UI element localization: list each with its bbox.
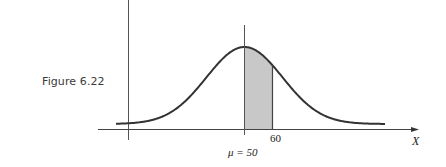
x-axis-arrow-icon	[411, 127, 419, 132]
x-axis-label: X	[411, 134, 420, 148]
normal-curve-chart: 60 μ = 50 X	[0, 0, 446, 167]
tick-label-60: 60	[270, 132, 282, 144]
mean-label: μ = 50	[227, 146, 258, 158]
